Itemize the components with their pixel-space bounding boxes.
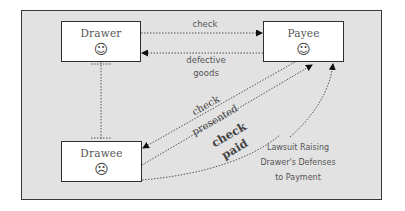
label-lawsuit-3: to Payment bbox=[258, 172, 338, 184]
node-drawee-label: Drawee bbox=[62, 147, 141, 159]
label-lawsuit-2: Drawer's Defenses bbox=[254, 157, 342, 169]
node-drawer-label: Drawer bbox=[62, 27, 140, 39]
node-drawer: Drawer ☺ bbox=[61, 21, 141, 62]
node-drawee: Drawee ☹ bbox=[61, 141, 142, 182]
node-payee-label: Payee bbox=[264, 27, 343, 39]
happy-face-icon: ☺ bbox=[62, 41, 140, 57]
happy-face-icon: ☺ bbox=[264, 41, 343, 57]
edge-lawsuit-upper bbox=[290, 64, 333, 137]
label-lawsuit-1: Lawsuit Raising bbox=[258, 142, 338, 154]
label-goods: goods bbox=[176, 67, 236, 79]
node-payee: Payee ☺ bbox=[263, 21, 344, 62]
sad-face-icon: ☹ bbox=[62, 161, 141, 177]
label-defective: defective bbox=[176, 54, 236, 66]
label-check: check bbox=[185, 18, 225, 30]
